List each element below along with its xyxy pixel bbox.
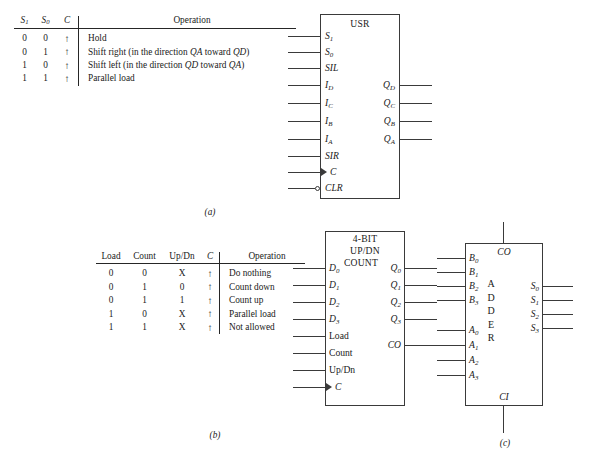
usr-pin-qa: QA [360,133,395,145]
table-row: 1 1 X ↑ Not allowed [96,321,305,334]
counter-block-title-line-2: UP/DN [325,245,405,256]
usr-input-wire-id [288,85,320,86]
cell-s1: 0 [14,32,35,45]
counter-input-wire-d0 [293,268,325,269]
counter-pin-q0: Q0 [366,262,401,274]
cell-clock: ↑ [56,59,79,72]
cell-clock: ↑ [56,72,79,85]
usr-pin-qc: QC [360,97,395,109]
table-b-header-row: Load Count Up/Dn C Operation [96,252,305,264]
table-row: 0 0 ↑ Hold [14,32,296,45]
cell-operation: Shift right (in the direction QA toward … [79,46,296,59]
adder-output-wire-s3 [543,328,573,329]
counter-input-wire-updn [293,370,325,371]
cell-operation: Not allowed [220,321,305,334]
header-s1: S1 [14,16,35,29]
cell-s1: 1 [14,59,35,72]
table-row: 0 1 1 ↑ Count up [96,294,305,307]
adder-pin-b2: B2 [469,280,478,292]
cell-s1: 1 [14,72,35,85]
truth-table-usr: S1 S0 C Operation 0 0 ↑ Hold 0 1 [14,16,296,86]
cell-count: 1 [126,294,163,307]
adder-output-wire-s2 [543,314,573,315]
caption-a: (a) [180,207,240,217]
cell-load: 0 [96,281,126,294]
adder-pin-s2: S2 [504,308,539,320]
counter-pin-d1: D1 [329,279,339,291]
cell-updn: 1 [163,294,201,307]
caption-c: (c) [475,438,535,448]
counter-output-wire-q2 [405,302,437,303]
table-row: 1 1 ↑ Parallel load [14,72,296,85]
usr-pin-s1: S1 [325,30,333,42]
cell-count: 1 [126,321,163,334]
usr-input-wire-sil [288,68,320,69]
counter-pin-q2: Q2 [366,296,401,308]
cell-s0: 0 [35,32,56,45]
usr-pin-sil: SIL [325,62,338,73]
adder-title-letter: D [483,304,499,318]
counter-pin-q1: Q1 [366,279,401,291]
usr-output-wire-qd [400,85,432,86]
cell-load: 1 [96,321,126,334]
cell-operation: Count down [220,281,305,294]
cell-clock: ↑ [201,281,220,294]
cell-clock: ↑ [201,308,220,321]
cell-updn: X [163,267,201,280]
counter-pin-q3: Q3 [366,313,401,325]
cell-operation: Parallel load [79,72,296,85]
counter-pin-d2: D2 [329,296,339,308]
usr-pin-ib: IB [325,115,332,127]
adder-pin-a2: A2 [469,354,478,366]
table-row: 1 0 X ↑ Parallel load [96,308,305,321]
header-count: Count [126,252,163,264]
caption-b: (b) [185,430,245,440]
cell-s1: 0 [14,46,35,59]
adder-pin-s3: S3 [504,322,539,334]
usr-input-wire-ib [288,121,320,122]
usr-output-wire-qb [400,121,432,122]
header-updn: Up/Dn [163,252,201,264]
header-s0: S0 [35,16,56,29]
adder-title-letter: A [483,277,499,291]
counter-output-wire-q0 [405,268,437,269]
table-row: 0 1 0 ↑ Count down [96,281,305,294]
cell-clock: ↑ [201,267,220,280]
truth-table-counter: Load Count Up/Dn C Operation 0 0 X ↑ Do … [96,252,305,334]
adder-pin-s0: S0 [504,280,539,292]
usr-pin-ia: IA [325,133,332,145]
table-row: 1 0 ↑ Shift left (in the direction QD to… [14,59,296,72]
counter-pin-load: Load [329,330,349,341]
usr-input-wire-s0 [288,52,320,53]
cell-load: 0 [96,294,126,307]
usr-pin-id: ID [325,79,333,91]
cell-clock: ↑ [56,32,79,45]
usr-input-wire-ic [288,103,320,104]
adder-input-wire-a1 [437,345,465,346]
counter-output-wire-q3 [405,319,437,320]
cell-clock: ↑ [201,321,220,334]
adder-output-wire-s1 [543,300,573,301]
usr-block-title: USR [320,18,400,29]
cell-s0: 1 [35,46,56,59]
counter-input-wire-load [293,336,325,337]
adder-pin-a3: A3 [469,369,478,381]
counter-pin-updn: Up/Dn [329,364,355,375]
adder-input-wire-a3 [437,375,465,376]
usr-clr-inversion-bubble-icon [315,186,320,191]
adder-pin-ci: CI [465,391,543,402]
adder-pin-b1: B1 [469,266,478,278]
usr-pin-qd: QD [360,79,395,91]
cell-count: 0 [126,308,163,321]
adder-input-wire-b0 [437,258,465,259]
usr-output-wire-qa [400,139,432,140]
cell-count: 0 [126,267,163,280]
adder-pin-a1: A1 [469,339,478,351]
counter-output-wire-co [405,345,437,346]
cell-operation: Count up [220,294,305,307]
figure-canvas: S1 S0 C Operation 0 0 ↑ Hold 0 1 [0,0,594,463]
counter-clock-triangle-icon [326,383,332,391]
usr-input-wire-clock [288,172,320,173]
cell-operation: Hold [79,32,296,45]
adder-pin-a0: A0 [469,324,478,336]
